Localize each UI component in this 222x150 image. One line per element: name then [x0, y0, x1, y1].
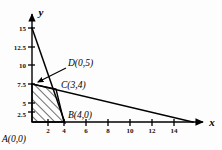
x-tick-label-14: 14: [171, 127, 179, 135]
x-tick-label-2: 2: [46, 127, 50, 135]
x-tick-label-8: 8: [106, 127, 110, 135]
y-tick-label-2-5: 2.5: [17, 111, 26, 119]
y-axis-label: y: [37, 6, 44, 18]
coordinate-plane-svg: 15 12.5 10 7.5 5 2.5 2 4 6 8 10 12 14 y …: [0, 0, 222, 150]
x-axis-label: x: [208, 116, 215, 128]
y-tick-label-15: 15: [19, 25, 27, 33]
x-tick-label-12: 12: [149, 127, 157, 135]
x-tick-label-10: 10: [127, 127, 135, 135]
y-tick-label-7-5: 7.5: [17, 81, 26, 89]
y-tick-label-5: 5: [23, 100, 27, 108]
x-tick-label-6: 6: [84, 127, 88, 135]
y-tick-label-10: 10: [19, 62, 27, 70]
point-label-a: A(0,0): [1, 134, 26, 145]
point-label-b: B(4,0): [68, 110, 92, 121]
point-label-c: C(3,4): [61, 80, 86, 91]
x-tick-label-4: 4: [62, 127, 66, 135]
graph-figure: 15 12.5 10 7.5 5 2.5 2 4 6 8 10 12 14 y …: [0, 0, 222, 150]
point-label-d: D(0,5): [67, 58, 93, 69]
y-tick-label-12-5: 12.5: [14, 44, 27, 52]
